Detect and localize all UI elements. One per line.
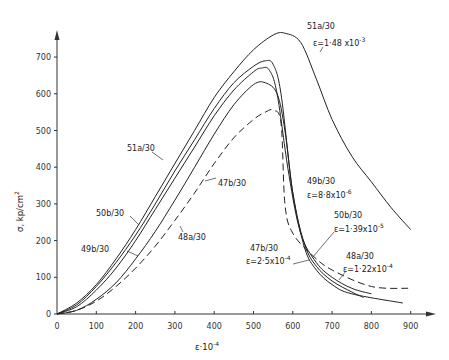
x-tick-label: 200 <box>128 322 143 331</box>
y-tick-label: 700 <box>36 53 51 62</box>
x-axis-title: ε·10-4 <box>195 340 219 352</box>
leader-50b-left <box>130 216 139 225</box>
x-tick-label: 100 <box>89 322 104 331</box>
label-48a-mid: 48a/30 <box>178 233 206 242</box>
label-50b-right: 50b/30 <box>334 211 362 220</box>
y-tick-label: 100 <box>36 273 51 282</box>
x-tick-label: 800 <box>364 322 379 331</box>
label-49b-right: 49b/30 <box>307 177 335 186</box>
x-tick-label: 0 <box>54 322 59 331</box>
leader-47b-right <box>293 260 309 264</box>
x-tick-label: 600 <box>285 322 300 331</box>
label-47b-right: 47b/30 <box>250 244 278 253</box>
label-47b-mid: 47b/30 <box>218 179 246 188</box>
label-48a-right: 48a/30 <box>346 252 374 261</box>
annotation-51a: ε=1·48 x10-3 <box>313 36 365 48</box>
curve-labels <box>127 47 346 280</box>
y-tick-label: 0 <box>46 310 51 319</box>
y-tick-label: 400 <box>36 163 51 172</box>
annotation-47b: ε=2·5x10-4 <box>246 254 291 266</box>
annotation-49b: ε=8·8x10-6 <box>307 188 352 200</box>
label-51a-left: 51a/30 <box>127 144 155 153</box>
y-tick-label: 500 <box>36 127 51 136</box>
stress-strain-chart: 0100200300400500600700 01002003004005006… <box>0 0 449 360</box>
annotation-50b: ε=1·39x10-5 <box>334 222 384 234</box>
x-axis-arrow-icon <box>426 312 436 317</box>
y-tick-label: 600 <box>36 90 51 99</box>
x-tick-label: 500 <box>246 322 261 331</box>
label-49b-left: 49b/30 <box>81 245 109 254</box>
x-tick-label: 400 <box>207 322 222 331</box>
svg-text:σ, kp/cm2: σ, kp/cm2 <box>13 191 25 232</box>
leader-50b-right <box>312 232 334 258</box>
label-50b-left: 50b/30 <box>96 209 124 218</box>
leader-49b-left <box>127 251 138 256</box>
leader-48a-mid <box>180 226 183 232</box>
leader-47b-mid <box>205 178 216 181</box>
label-51a-top: 51a/30 <box>307 22 335 31</box>
x-tick-label: 700 <box>324 322 339 331</box>
y-axis-title: σ, kp/cm2 <box>13 191 25 232</box>
x-tick-label: 900 <box>403 322 418 331</box>
leader-51a-left <box>152 152 163 160</box>
y-tick-label: 200 <box>36 237 51 246</box>
annotation-48a: ε=1·22x10-4 <box>343 262 393 274</box>
x-tick-label: 300 <box>167 322 182 331</box>
y-tick-label: 300 <box>36 200 51 209</box>
y-axis-arrow-icon <box>55 30 60 40</box>
y-ticks: 0100200300400500600700 <box>36 53 57 319</box>
